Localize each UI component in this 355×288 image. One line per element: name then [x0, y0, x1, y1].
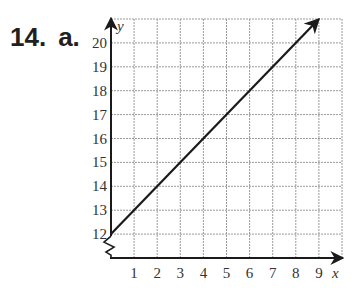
y-tick-label: 13	[92, 202, 107, 218]
x-tick-label: 1	[130, 265, 138, 281]
grid	[111, 19, 342, 258]
line-chart: 123456789121314151617181920xy	[0, 0, 355, 288]
y-axis-label: y	[115, 18, 124, 34]
x-tick-label: 7	[269, 265, 277, 281]
tick-labels: 123456789121314151617181920xy	[92, 18, 339, 281]
y-tick-label: 16	[92, 131, 108, 147]
x-tick-label: 5	[223, 265, 231, 281]
y-tick-label: 19	[92, 59, 107, 75]
y-tick-label: 17	[92, 107, 108, 123]
data-line	[111, 19, 319, 234]
x-tick-label: 6	[246, 265, 254, 281]
x-tick-label: 4	[200, 265, 208, 281]
y-tick-label: 14	[92, 178, 108, 194]
x-tick-label: 3	[177, 265, 185, 281]
x-tick-label: 9	[315, 265, 323, 281]
y-tick-label: 18	[92, 83, 107, 99]
x-axis-label: x	[331, 265, 339, 281]
x-tick-label: 2	[153, 265, 161, 281]
y-tick-label: 12	[92, 226, 107, 242]
y-tick-label: 15	[92, 154, 107, 170]
x-tick-label: 8	[292, 265, 300, 281]
series-line	[111, 19, 319, 234]
y-tick-label: 20	[92, 35, 107, 51]
